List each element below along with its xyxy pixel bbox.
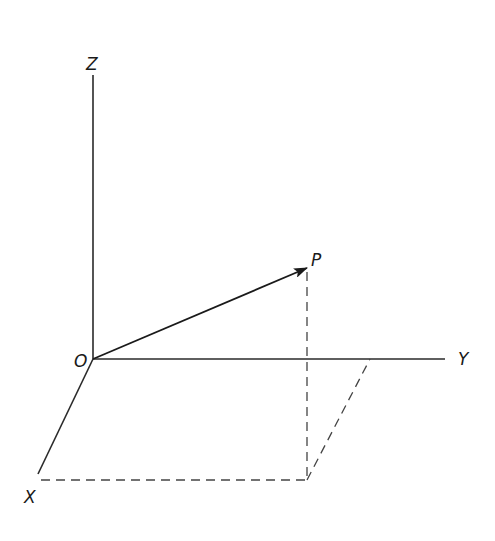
x-axis-label: X (23, 487, 36, 507)
z-axis-label: Z (85, 54, 98, 74)
vector-op (93, 268, 307, 359)
projection-y-parallel (307, 359, 370, 480)
origin-label: O (74, 351, 87, 371)
x-axis (38, 359, 93, 474)
y-axis-label: Y (458, 349, 470, 369)
point-p-label: P (311, 250, 322, 270)
coordinate-diagram: Z Y X O P (0, 0, 495, 541)
